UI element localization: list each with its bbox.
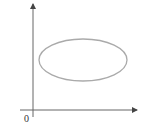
ellipse	[39, 39, 127, 81]
coordinate-diagram: 0	[0, 0, 142, 126]
origin-label: 0	[24, 113, 29, 124]
